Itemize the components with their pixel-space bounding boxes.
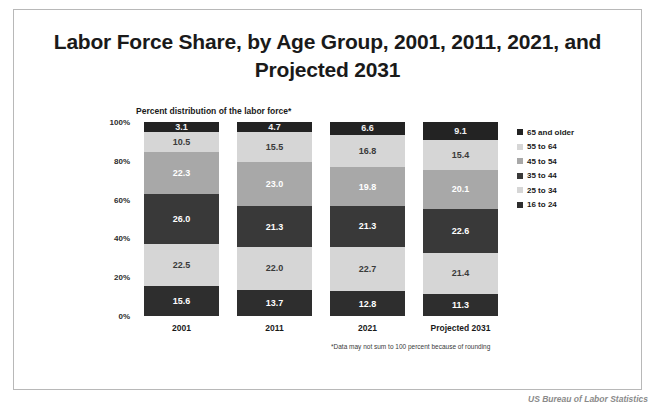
legend-item[interactable]: 65 and older [517, 125, 612, 140]
bar-segment[interactable]: 19.8 [330, 167, 404, 205]
bar-segment[interactable]: 15.5 [237, 132, 311, 162]
legend-swatch-icon [517, 158, 523, 164]
chart-subtitle: Percent distribution of the labor force* [136, 106, 291, 116]
y-axis-tick-label: 100% [110, 118, 130, 127]
bar-column[interactable]: 3.110.522.326.022.515.62001 [144, 122, 218, 316]
page-title: Labor Force Share, by Age Group, 2001, 2… [40, 28, 615, 84]
legend-item[interactable]: 16 to 24 [517, 198, 612, 213]
bar-segment[interactable]: 21.3 [237, 206, 311, 247]
bar-segment[interactable]: 11.3 [423, 294, 497, 316]
bar-segment[interactable]: 10.5 [144, 132, 218, 152]
bar-column[interactable]: 4.715.523.021.322.013.72011 [237, 122, 311, 316]
bar-segment[interactable]: 9.1 [423, 122, 497, 140]
x-axis-category-label: Projected 2031 [423, 323, 497, 333]
legend-swatch-icon [517, 173, 523, 179]
chart-plot-area: 0%20%40%60%80%100% 3.110.522.326.022.515… [135, 122, 507, 316]
legend-item[interactable]: 55 to 64 [517, 140, 612, 155]
legend-item-label: 55 to 64 [527, 142, 557, 151]
x-axis-category-label: 2001 [144, 323, 218, 333]
chart-container: Percent distribution of the labor force*… [96, 106, 566, 351]
bar-segment[interactable]: 13.7 [237, 290, 311, 316]
bar-segment[interactable]: 15.4 [423, 140, 497, 170]
bar-column[interactable]: 6.616.819.821.322.712.82021 [330, 122, 404, 316]
bar-segment[interactable]: 6.6 [330, 122, 404, 135]
legend-swatch-icon [517, 202, 523, 208]
chart-legend: 65 and older55 to 6445 to 5435 to 4425 t… [517, 125, 612, 212]
legend-item[interactable]: 25 to 34 [517, 183, 612, 198]
bar-segment[interactable]: 23.0 [237, 162, 311, 206]
legend-item-label: 16 to 24 [527, 200, 557, 209]
legend-swatch-icon [517, 144, 523, 150]
y-axis-tick-label: 40% [114, 234, 130, 243]
legend-item[interactable]: 45 to 54 [517, 154, 612, 169]
bar-segment[interactable]: 22.6 [423, 209, 497, 253]
y-axis-tick-label: 60% [114, 195, 130, 204]
x-axis-category-label: 2021 [330, 323, 404, 333]
bar-segment[interactable]: 12.8 [330, 291, 404, 316]
bar-segment[interactable]: 16.8 [330, 135, 404, 168]
bar-column[interactable]: 9.115.420.122.621.411.3Projected 2031 [423, 122, 497, 316]
bar-segment[interactable]: 21.4 [423, 253, 497, 295]
bar-segment[interactable]: 15.6 [144, 286, 218, 316]
bar-segment[interactable]: 22.3 [144, 152, 218, 194]
y-axis-tick-label: 20% [114, 273, 130, 282]
bar-segment[interactable]: 21.3 [330, 206, 404, 247]
legend-item-label: 65 and older [527, 128, 574, 137]
legend-swatch-icon [517, 187, 523, 193]
x-axis-category-label: 2011 [237, 323, 311, 333]
bar-segment[interactable]: 20.1 [423, 170, 497, 209]
source-attribution: US Bureau of Labor Statistics [528, 394, 648, 404]
legend-item-label: 35 to 44 [527, 171, 557, 180]
y-axis-tick-label: 80% [114, 156, 130, 165]
bar-segment[interactable]: 22.5 [144, 244, 218, 287]
legend-swatch-icon [517, 129, 523, 135]
bar-segment[interactable]: 26.0 [144, 194, 218, 243]
bar-segment[interactable]: 22.0 [237, 247, 311, 289]
bar-segment[interactable]: 3.1 [144, 122, 218, 132]
slide-canvas: Labor Force Share, by Age Group, 2001, 2… [0, 0, 655, 406]
bar-segment[interactable]: 4.7 [237, 122, 311, 132]
chart-footnote: *Data may not sum to 100 percent because… [331, 343, 490, 350]
legend-item-label: 25 to 34 [527, 186, 557, 195]
bar-segment[interactable]: 22.7 [330, 247, 404, 291]
legend-item[interactable]: 35 to 44 [517, 169, 612, 184]
legend-item-label: 45 to 54 [527, 157, 557, 166]
y-axis-tick-label: 0% [118, 312, 130, 321]
